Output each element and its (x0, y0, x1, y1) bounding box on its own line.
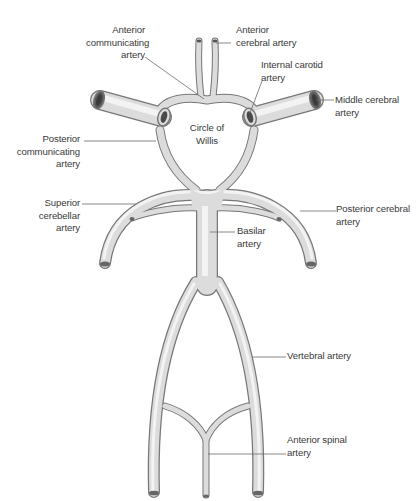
label-anterior-cerebral-artery: Anterior cerebral artery (236, 24, 296, 49)
circle-of-willis-diagram: Anterior communicating artery Anterior c… (0, 0, 420, 501)
label-anterior-spinal-artery: Anterior spinal artery (287, 434, 347, 459)
label-anterior-communicating-artery: Anterior communicating artery (86, 24, 145, 62)
label-internal-carotid-artery: Internal carotid artery (261, 59, 323, 84)
label-posterior-cerebral-artery: Posterior cerebral artery (336, 203, 410, 228)
label-basilar-artery: Basilar artery (237, 225, 266, 250)
vessel-illustration (0, 0, 420, 501)
label-vertebral-artery: Vertebral artery (287, 350, 351, 363)
label-circle-of-willis: Circle of Willis (182, 122, 232, 147)
label-middle-cerebral-artery: Middle cerebral artery (335, 94, 399, 119)
label-posterior-communicating-artery: Posterior communicating artery (14, 133, 80, 171)
label-superior-cerebellar-artery: Superior cerebellar artery (30, 197, 80, 235)
